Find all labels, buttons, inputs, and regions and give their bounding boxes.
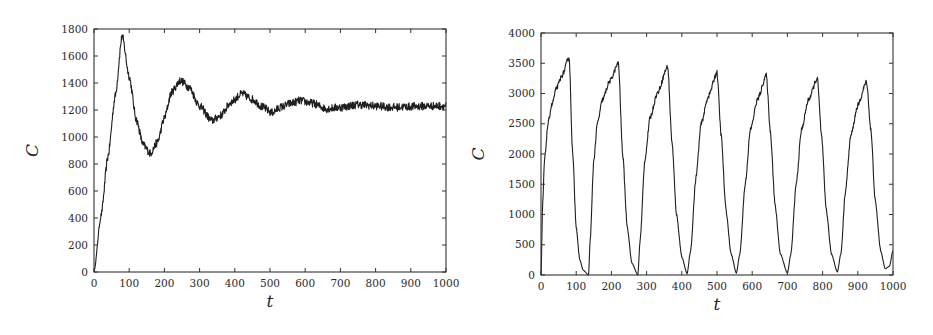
y-tick-label: 1000 <box>508 208 535 220</box>
x-tick-label: 300 <box>190 277 210 289</box>
x-tick-label: 100 <box>566 280 586 292</box>
x-tick-label: 700 <box>777 280 797 292</box>
x-tick-label: 800 <box>813 280 833 292</box>
y-tick-label: 2500 <box>508 117 535 129</box>
y-tick-label: 1400 <box>61 77 88 89</box>
x-tick-label: 200 <box>154 277 174 289</box>
y-axis-label: C <box>468 147 488 160</box>
y-tick-label: 400 <box>68 212 88 224</box>
x-tick-label: 500 <box>707 280 727 292</box>
x-axis-label: t <box>714 294 721 314</box>
x-tick-label: 900 <box>401 277 421 289</box>
y-tick-label: 1800 <box>61 23 88 35</box>
x-tick-label: 100 <box>119 277 139 289</box>
x-tick-label: 400 <box>672 280 692 292</box>
y-tick-label: 500 <box>515 238 535 250</box>
x-tick-label: 600 <box>742 280 762 292</box>
y-tick-label: 0 <box>528 269 535 281</box>
x-axis-label: t <box>267 291 274 311</box>
y-tick-label: 0 <box>81 266 88 278</box>
left-chart-convergent: 0100200300400500600700800900100002004006… <box>22 23 459 312</box>
data-series-line <box>541 58 893 275</box>
y-tick-label: 3000 <box>508 87 535 99</box>
x-tick-label: 300 <box>637 280 657 292</box>
y-tick-label: 800 <box>68 158 88 170</box>
x-tick-label: 0 <box>538 280 545 292</box>
y-tick-label: 4000 <box>508 27 535 39</box>
x-tick-label: 200 <box>601 280 621 292</box>
y-tick-label: 3500 <box>508 57 535 69</box>
plot-frame <box>94 29 446 272</box>
y-tick-label: 1600 <box>61 50 88 62</box>
y-tick-label: 1500 <box>508 178 535 190</box>
x-tick-label: 1000 <box>880 280 907 292</box>
x-tick-label: 0 <box>91 277 98 289</box>
x-tick-label: 900 <box>848 280 868 292</box>
y-tick-label: 600 <box>68 185 88 197</box>
y-tick-label: 200 <box>68 239 88 251</box>
x-tick-label: 1000 <box>433 277 460 289</box>
y-tick-label: 1000 <box>61 131 88 143</box>
plot-frame <box>541 33 893 275</box>
x-tick-label: 500 <box>260 277 280 289</box>
right-chart-oscillating: 0100200300400500600700800900100005001000… <box>468 27 906 315</box>
x-tick-label: 600 <box>295 277 315 289</box>
figure: 0100200300400500600700800900100002004006… <box>0 0 933 335</box>
y-tick-label: 1200 <box>61 104 88 116</box>
x-tick-label: 800 <box>366 277 386 289</box>
y-axis-label: C <box>22 144 42 157</box>
y-tick-label: 2000 <box>508 148 535 160</box>
data-series-line <box>94 35 446 272</box>
x-tick-label: 400 <box>225 277 245 289</box>
x-tick-label: 700 <box>330 277 350 289</box>
